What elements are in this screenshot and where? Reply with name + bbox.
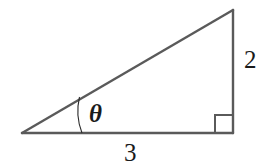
triangle-figure: 2 3 θ [0,0,269,166]
adjacent-side-label: 3 [124,140,137,165]
angle-arc-icon [78,97,82,133]
right-angle-marker-icon [215,115,233,133]
opposite-side-label: 2 [244,47,257,72]
hypotenuse-line [22,10,233,133]
angle-theta-label: θ [89,101,102,126]
